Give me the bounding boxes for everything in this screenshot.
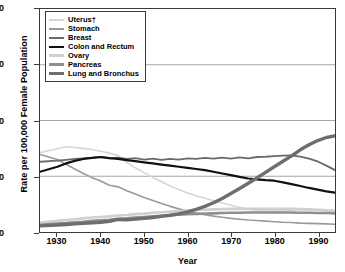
chart-figure: Rate per 100,000 Female Population 02040… [0, 0, 345, 272]
legend-label: Uterus† [68, 15, 96, 24]
chart-legend: Uterus†StomachBreastColon and RectumOvar… [45, 11, 146, 82]
legend-label: Breast [68, 33, 91, 42]
series-lines [40, 136, 335, 226]
legend-item: Breast [49, 33, 139, 42]
x-tick-label: 1940 [80, 236, 120, 246]
legend-item: Ovary [49, 51, 139, 60]
x-tick-label: 1950 [124, 236, 164, 246]
legend-label: Ovary [68, 51, 89, 60]
y-tick-mark [34, 233, 39, 234]
legend-label: Lung and Bronchus [68, 69, 139, 78]
legend-item: Stomach [49, 24, 139, 33]
x-tick-mark [144, 233, 145, 237]
x-tick-mark [319, 233, 320, 237]
x-tick-mark [56, 233, 57, 237]
legend-item: Lung and Bronchus [49, 69, 139, 78]
legend-swatch-icon [49, 54, 64, 57]
legend-item: Colon and Rectum [49, 42, 139, 51]
legend-label: Pancreas [68, 60, 101, 69]
x-tick-label: 1990 [299, 236, 339, 246]
y-axis-title: Rate per 100,000 Female Population [19, 14, 29, 214]
legend-item: Uterus† [49, 15, 139, 24]
legend-swatch-icon [49, 28, 64, 30]
y-tick-label: 40 [0, 116, 4, 126]
y-tick-label: 20 [0, 172, 4, 182]
legend-swatch-icon [49, 37, 64, 39]
x-tick-mark [231, 233, 232, 237]
y-tick-label: 60 [0, 59, 4, 69]
legend-label: Stomach [68, 24, 100, 33]
x-tick-mark [188, 233, 189, 237]
x-axis-title: Year [39, 256, 336, 266]
legend-swatch-icon [49, 19, 64, 21]
legend-label: Colon and Rectum [68, 42, 134, 51]
x-tick-mark [275, 233, 276, 237]
x-tick-label: 1960 [168, 236, 208, 246]
x-tick-label: 1930 [36, 236, 76, 246]
x-tick-mark [100, 233, 101, 237]
y-tick-label: 0 [0, 228, 4, 238]
legend-swatch-icon [49, 46, 64, 48]
series-line-colon-and-rectum [40, 157, 335, 193]
legend-item: Pancreas [49, 60, 139, 69]
y-tick-label: 80 [0, 3, 4, 13]
legend-swatch-icon [49, 72, 64, 75]
x-tick-label: 1980 [255, 236, 295, 246]
legend-swatch-icon [49, 63, 64, 66]
x-tick-label: 1970 [211, 236, 251, 246]
